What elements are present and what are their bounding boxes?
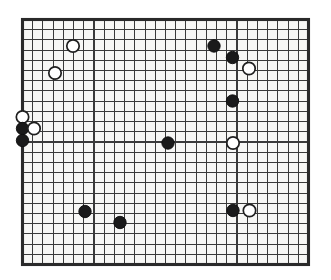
white-stone[interactable] <box>49 67 61 79</box>
white-stone[interactable] <box>16 111 28 123</box>
white-stone[interactable] <box>243 204 255 216</box>
white-stone[interactable] <box>243 62 255 74</box>
white-stone[interactable] <box>227 137 239 149</box>
black-stone[interactable] <box>79 205 91 217</box>
black-stone[interactable] <box>227 204 239 216</box>
black-stone[interactable] <box>226 95 238 107</box>
black-stone[interactable] <box>162 137 174 149</box>
black-stone[interactable] <box>16 134 28 146</box>
black-stone[interactable] <box>226 51 238 63</box>
black-stone[interactable] <box>208 40 220 52</box>
white-stone[interactable] <box>28 122 40 134</box>
screenshot-root <box>0 0 331 280</box>
black-stone[interactable] <box>16 122 28 134</box>
go-board[interactable] <box>0 0 331 280</box>
white-stone[interactable] <box>67 40 79 52</box>
black-stone[interactable] <box>114 216 126 228</box>
go-board-canvas[interactable] <box>0 0 331 280</box>
